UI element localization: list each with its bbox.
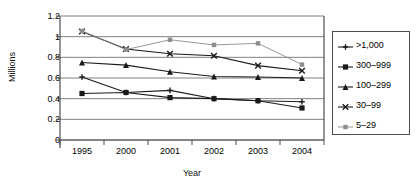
legend-item-label: 300–999 [354, 61, 391, 70]
data-point-marker [124, 47, 128, 51]
data-point-marker [300, 62, 304, 66]
legend-item[interactable]: 100–299 [333, 75, 409, 95]
legend-item[interactable]: >1,000 [333, 35, 409, 55]
legend-item-label: >1,000 [354, 41, 384, 50]
data-point-marker [123, 90, 128, 95]
series-line [82, 63, 302, 79]
series-5-29 [80, 29, 304, 67]
legend-item-label: 30–99 [354, 101, 381, 110]
series-30-99 [79, 29, 305, 74]
data-point-marker [167, 95, 172, 100]
x-tick-label: 2002 [204, 147, 224, 156]
data-point-marker [168, 38, 172, 42]
x-tick-label: 2000 [116, 147, 136, 156]
data-point-marker [255, 98, 260, 103]
legend-item[interactable]: 5–29 [333, 115, 409, 135]
x-tick-label: 2003 [248, 147, 268, 156]
data-point-marker [80, 29, 84, 33]
data-point-marker [212, 43, 216, 47]
legend-marker-icon [337, 39, 354, 51]
data-point-marker [211, 96, 216, 101]
data-point-marker [343, 64, 348, 69]
legend-marker-icon [337, 59, 354, 71]
data-point-marker [299, 105, 304, 110]
legend-item[interactable]: 30–99 [333, 95, 409, 115]
x-tick-label: 2004 [292, 147, 312, 156]
legend-item-label: 5–29 [354, 121, 376, 130]
legend-item-label: 100–299 [354, 81, 391, 90]
x-tick-label: 2001 [160, 147, 180, 156]
series-1-000 [79, 74, 305, 104]
data-point-marker [343, 125, 347, 129]
x-axis-title: Year [60, 168, 324, 178]
data-point-marker [79, 91, 84, 96]
x-tick-label: 1995 [72, 147, 92, 156]
line-chart: Millions 00.20.40.60.811.2 1995200020012… [0, 0, 418, 191]
chart-legend: >1,000300–999100–29930–995–29 [332, 31, 410, 135]
legend-marker-icon [337, 79, 354, 91]
legend-marker-icon [337, 119, 354, 131]
legend-item[interactable]: 300–999 [333, 55, 409, 75]
x-axis-tick-labels: 199520002001200220032004 [60, 147, 324, 161]
legend-marker-icon [337, 99, 354, 111]
series-300-999 [79, 90, 304, 111]
series-line [82, 31, 302, 65]
data-point-marker [256, 41, 260, 45]
